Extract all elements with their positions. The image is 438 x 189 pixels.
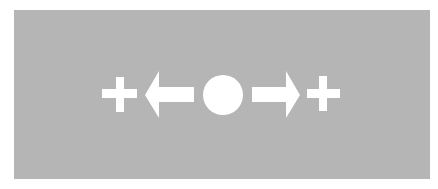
plus-icon: [102, 77, 137, 112]
symbol-row: [0, 0, 438, 189]
arrow-left-icon: [145, 71, 194, 118]
plus-icon: [307, 76, 340, 111]
arrow-right-icon: [252, 71, 300, 118]
circle-icon: [203, 75, 243, 115]
